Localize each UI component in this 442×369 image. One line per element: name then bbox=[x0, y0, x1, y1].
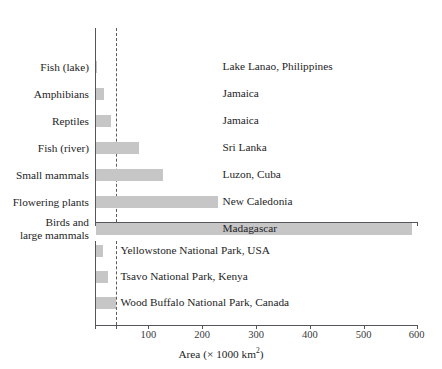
top-tick-600 bbox=[417, 222, 418, 226]
top-panel: Fish (lake) Amphibians Reptiles Fish (ri… bbox=[0, 28, 442, 224]
bottom-tick-ref bbox=[116, 325, 117, 329]
category-label-fish-lake: Fish (lake) bbox=[3, 61, 89, 74]
xtick-label-600: 600 bbox=[409, 329, 425, 340]
bar-small-mammals bbox=[96, 169, 163, 181]
xtick-label-200: 200 bbox=[194, 329, 210, 340]
bar-amphibians bbox=[96, 88, 104, 100]
x-axis-title-base: Area (× 1000 km bbox=[178, 348, 256, 360]
bottom-tick-0 bbox=[95, 325, 96, 329]
bar-tsavo bbox=[96, 271, 108, 283]
bar-fish-lake bbox=[96, 61, 98, 73]
category-label-small-mammals: Small mammals bbox=[0, 169, 89, 182]
annotation-wood-buffalo: Wood Buffalo National Park, Canada bbox=[121, 296, 290, 308]
bottom-plot-area: 100 200 300 400 500 600 Yellowstone Nati… bbox=[95, 241, 418, 333]
bottom-panel: 100 200 300 400 500 600 Yellowstone Nati… bbox=[0, 241, 442, 333]
reference-line-bottom bbox=[116, 241, 117, 325]
xtick-label-500: 500 bbox=[356, 329, 372, 340]
x-axis-title-close: ) bbox=[260, 348, 264, 360]
reference-line-top bbox=[116, 28, 117, 222]
x-axis-title: Area (× 1000 km2) bbox=[0, 346, 442, 360]
bar-reptiles bbox=[96, 115, 111, 127]
xtick-label-100: 100 bbox=[140, 329, 156, 340]
annotation-lake-lanao: Lake Lanao, Philippines bbox=[223, 60, 333, 72]
category-label-flowering-plants: Flowering plants bbox=[0, 196, 89, 209]
top-plot-area: Lake Lanao, Philippines Jamaica Jamaica … bbox=[95, 28, 418, 224]
category-label-reptiles: Reptiles bbox=[3, 115, 89, 128]
category-label-amphibians: Amphibians bbox=[3, 88, 89, 101]
bar-wood-buffalo bbox=[96, 297, 116, 309]
category-label-birds-large-mammals: Birds and large mammals bbox=[0, 216, 89, 241]
annotation-madagascar: Madagascar bbox=[223, 222, 278, 234]
category-label-fish-river: Fish (river) bbox=[3, 142, 89, 155]
annotation-yellowstone: Yellowstone National Park, USA bbox=[121, 244, 270, 256]
annotation-luzon-cuba: Luzon, Cuba bbox=[223, 168, 281, 180]
bar-flowering-plants bbox=[96, 196, 219, 208]
chart-figure: Fish (lake) Amphibians Reptiles Fish (ri… bbox=[0, 0, 442, 369]
annotation-sri-lanka: Sri Lanka bbox=[223, 141, 267, 153]
xtick-label-400: 400 bbox=[302, 329, 318, 340]
xtick-label-300: 300 bbox=[248, 329, 264, 340]
annotation-jamaica-reptiles: Jamaica bbox=[223, 114, 259, 126]
bar-yellowstone bbox=[96, 245, 103, 257]
bar-fish-river bbox=[96, 142, 139, 154]
annotation-new-caledonia: New Caledonia bbox=[223, 195, 293, 207]
annotation-tsavo: Tsavo National Park, Kenya bbox=[121, 270, 248, 282]
annotation-jamaica-amphibians: Jamaica bbox=[223, 87, 259, 99]
